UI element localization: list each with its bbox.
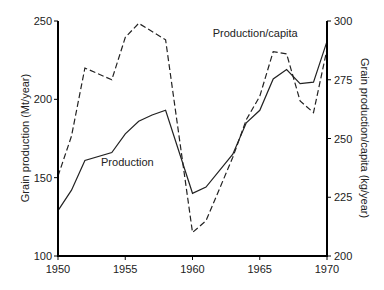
grain-production-chart: Production/capitaProduction 100150200250… (0, 0, 384, 290)
x-tick-label: 1950 (46, 263, 70, 275)
x-tick-label: 1955 (113, 263, 137, 275)
y-tick-label-right: 200 (334, 250, 352, 262)
x-tick-label: 1970 (315, 263, 339, 275)
series-annotation-label: Production/capita (213, 27, 299, 39)
series-annotation-label: Production (101, 156, 154, 168)
production-line (58, 41, 327, 210)
axes: 1001502002502002252502753001950195519601… (34, 15, 353, 275)
y-tick-label-right: 225 (334, 191, 352, 203)
y-tick-label-left: 200 (34, 93, 52, 105)
y-tick-label-left: 100 (34, 250, 52, 262)
y-tick-label-right: 250 (334, 133, 352, 145)
y-axis-label-right: Grain production/capita (kg/year) (359, 58, 371, 218)
y-axis-label-left: Grain production (Mt/year) (19, 74, 31, 202)
y-tick-label-left: 150 (34, 172, 52, 184)
y-tick-label-right: 275 (334, 74, 352, 86)
x-tick-label: 1960 (180, 263, 204, 275)
plot-area: Production/capitaProduction (58, 23, 327, 232)
y-tick-label-left: 250 (34, 15, 52, 27)
y-tick-label-right: 300 (334, 15, 352, 27)
x-tick-label: 1965 (248, 263, 272, 275)
production-per-capita-line (58, 23, 327, 232)
